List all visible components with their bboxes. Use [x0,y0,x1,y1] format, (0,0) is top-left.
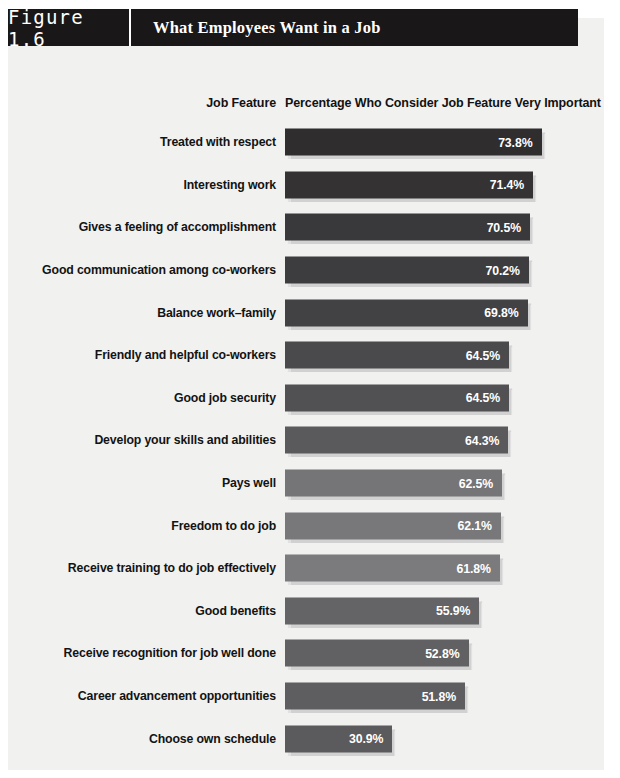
bar: 64.5% [285,342,509,369]
chart-row: Interesting work71.4% [8,164,604,207]
bar-container: 64.3% [285,427,508,454]
bar-category-label: Treated with respect [160,135,276,149]
chart-row: Develop your skills and abilities64.3% [8,419,604,462]
bar-category-label: Receive training to do job effectively [68,561,276,575]
bar-container: 30.9% [285,725,392,752]
column-header-percentage: Percentage Who Consider Job Feature Very… [285,96,601,110]
chart-row: Treated with respect73.8% [8,121,604,164]
bar: 71.4% [285,171,533,198]
bar-container: 51.8% [285,683,465,710]
bar-container: 69.8% [285,299,528,326]
bar-value-label: 64.5% [466,391,500,405]
bar-container: 70.2% [285,257,529,284]
bar-container: 62.1% [285,512,501,539]
bar: 61.8% [285,555,500,582]
bar-container: 64.5% [285,384,509,411]
bar-category-label: Interesting work [183,178,276,192]
chart-row: Friendly and helpful co-workers64.5% [8,334,604,377]
bar-value-label: 70.2% [486,263,520,277]
bar-category-label: Pays well [222,476,276,490]
bar-category-label: Good benefits [195,604,276,618]
bar: 62.1% [285,512,501,539]
bar-container: 73.8% [285,129,542,156]
bar: 73.8% [285,129,542,156]
bar: 69.8% [285,299,528,326]
bar-value-label: 64.5% [466,348,500,362]
chart-row: Receive training to do job effectively61… [8,547,604,590]
bar-container: 55.9% [285,597,479,624]
bar-category-label: Develop your skills and abilities [94,433,276,447]
bar-category-label: Choose own schedule [149,732,276,746]
chart-row: Gives a feeling of accomplishment70.5% [8,206,604,249]
bar-value-label: 64.3% [465,433,499,447]
bar-container: 52.8% [285,640,469,667]
bar: 70.5% [285,214,530,241]
column-header-job-feature: Job Feature [8,96,276,110]
bar-value-label: 70.5% [487,220,521,234]
bar-value-label: 61.8% [456,561,490,575]
bar: 70.2% [285,257,529,284]
bar: 64.5% [285,384,509,411]
bar-value-label: 52.8% [425,646,459,660]
bar-chart: Treated with respect73.8%Interesting wor… [8,121,604,761]
chart-row: Choose own schedule30.9% [8,717,604,760]
bar: 64.3% [285,427,508,454]
bar: 30.9% [285,725,392,752]
bar-value-label: 62.5% [459,476,493,490]
chart-row: Good job security64.5% [8,377,604,420]
bar-category-label: Friendly and helpful co-workers [95,348,276,362]
bar: 62.5% [285,470,502,497]
bar-value-label: 71.4% [490,178,524,192]
bar-container: 64.5% [285,342,509,369]
column-headers: Job Feature Percentage Who Consider Job … [8,96,604,118]
bar-value-label: 69.8% [484,306,518,320]
bar-category-label: Freedom to do job [171,519,276,533]
bar-category-label: Receive recognition for job well done [64,646,276,660]
bar-value-label: 73.8% [498,135,532,149]
bar: 55.9% [285,597,479,624]
chart-row: Good benefits55.9% [8,590,604,633]
bar-category-label: Good job security [174,391,276,405]
bar-value-label: 62.1% [457,519,491,533]
chart-row: Balance work–family69.8% [8,291,604,334]
bar: 51.8% [285,683,465,710]
bar-category-label: Gives a feeling of accomplishment [79,220,276,234]
bar-container: 70.5% [285,214,530,241]
chart-row: Career advancement opportunities51.8% [8,675,604,718]
bar-value-label: 51.8% [422,689,456,703]
bar-category-label: Balance work–family [157,306,276,320]
bar-category-label: Career advancement opportunities [78,689,276,703]
bar-value-label: 55.9% [436,604,470,618]
bar-container: 71.4% [285,171,533,198]
bar: 52.8% [285,640,469,667]
bar-value-label: 30.9% [349,732,383,746]
chart-row: Receive recognition for job well done52.… [8,632,604,675]
bar-container: 61.8% [285,555,500,582]
chart-row: Pays well62.5% [8,462,604,505]
chart-row: Freedom to do job62.1% [8,504,604,547]
chart-row: Good communication among co-workers70.2% [8,249,604,292]
bar-category-label: Good communication among co-workers [42,263,276,277]
figure-page: Figure 1.6 What Employees Want in a Job … [0,0,620,778]
bar-container: 62.5% [285,470,502,497]
